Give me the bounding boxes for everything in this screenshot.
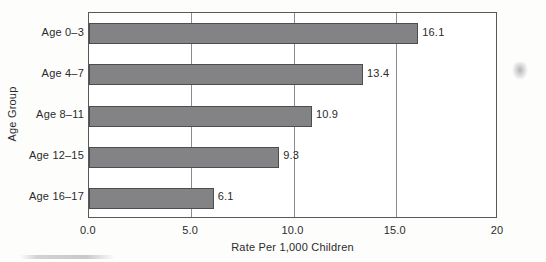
- y-axis-tick-label: Age 4–7: [0, 67, 84, 79]
- bar-value-label: 13.4: [367, 67, 389, 79]
- bar: [89, 106, 312, 127]
- x-axis-title: Rate Per 1,000 Children: [88, 241, 497, 253]
- y-axis-tick-label: Age 8–11: [0, 108, 84, 120]
- y-axis-tick-label: Age 12–15: [0, 149, 84, 161]
- bar-value-label: 9.3: [283, 149, 299, 161]
- chart-figure: Age Group Age 0–3Age 4–7Age 8–11Age 12–1…: [0, 0, 546, 262]
- bar: [89, 64, 363, 85]
- plot-area: [88, 12, 497, 218]
- x-axis-tick-label: 10.0: [281, 224, 303, 236]
- bar-value-label: 10.9: [316, 108, 338, 120]
- bar: [89, 147, 279, 168]
- x-axis-tick-label: 5.0: [182, 224, 198, 236]
- y-axis-tick-label: Age 16–17: [0, 190, 84, 202]
- bar-value-label: 16.1: [422, 26, 444, 38]
- scan-artifact-streak: [20, 255, 115, 259]
- bar-value-label: 6.1: [218, 190, 234, 202]
- x-axis-tick-label: 20: [491, 224, 504, 236]
- bar: [89, 188, 214, 209]
- scan-artifact-smudge: [512, 62, 528, 80]
- y-axis-tick-label: Age 0–3: [0, 26, 84, 38]
- x-axis-tick-label: 15.0: [384, 224, 406, 236]
- bar: [89, 23, 418, 44]
- x-axis-tick-label: 0.0: [80, 224, 96, 236]
